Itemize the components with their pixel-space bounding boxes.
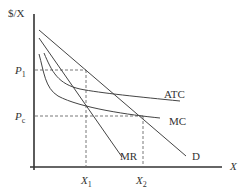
demand-label: D	[192, 150, 200, 162]
mr-label: MR	[120, 150, 138, 162]
mc-label: MC	[169, 115, 186, 127]
marginal-revenue-curve	[39, 38, 122, 157]
atc-label: ATC	[164, 88, 185, 100]
pc-label: Pc	[14, 110, 26, 125]
x1-label: X1	[80, 174, 92, 189]
natural-monopoly-diagram: $/X X P1 Pc X1 X2 ATC MC MR D	[0, 0, 252, 196]
average-total-cost-curve	[44, 53, 180, 101]
x-axis-label: X	[229, 160, 238, 172]
x2-label: X2	[135, 174, 147, 189]
y-axis-label: $/X	[8, 7, 25, 19]
p1-label: P1	[14, 64, 26, 79]
